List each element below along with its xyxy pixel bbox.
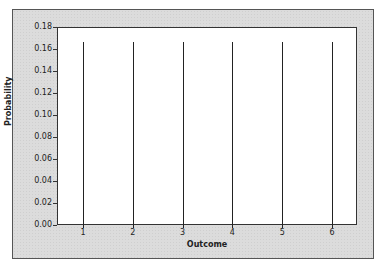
stem-6 (332, 42, 333, 228)
stem-3 (183, 42, 184, 228)
y-tick-label: 0.04 (12, 176, 52, 185)
stem-4 (232, 42, 233, 228)
y-tick-mark (53, 203, 57, 204)
y-tick-label: 0.06 (12, 154, 52, 163)
x-tick-label: 4 (224, 228, 240, 237)
y-tick-mark (53, 137, 57, 138)
y-tick-label: 0.10 (12, 110, 52, 119)
y-tick-mark (53, 49, 57, 50)
y-tick-label: 0.14 (12, 66, 52, 75)
x-tick-label: 3 (175, 228, 191, 237)
stem-2 (133, 42, 134, 228)
y-tick-mark (53, 181, 57, 182)
x-tick-label: 6 (324, 228, 340, 237)
y-tick-mark (53, 71, 57, 72)
stem-5 (282, 42, 283, 228)
y-tick-mark (53, 93, 57, 94)
plot-area (57, 27, 357, 225)
x-tick-label: 5 (274, 228, 290, 237)
y-tick-label: 0.02 (12, 198, 52, 207)
y-tick-label: 0.12 (12, 88, 52, 97)
y-tick-label: 0.08 (12, 132, 52, 141)
y-tick-label: 0.00 (12, 220, 52, 229)
y-tick-mark (53, 225, 57, 226)
y-tick-mark (53, 27, 57, 28)
x-tick-label: 2 (125, 228, 141, 237)
y-tick-mark (53, 115, 57, 116)
x-axis-label: Outcome (57, 240, 357, 249)
stem-1 (83, 42, 84, 228)
y-tick-label: 0.16 (12, 44, 52, 53)
y-tick-label: 0.18 (12, 22, 52, 31)
x-tick-label: 1 (75, 228, 91, 237)
y-tick-mark (53, 159, 57, 160)
